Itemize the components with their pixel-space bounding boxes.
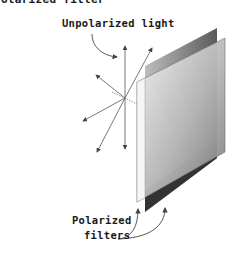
polarized-filters-label-line1: Polarized — [72, 214, 132, 226]
polarized-filters-label-line2: filters — [84, 229, 130, 241]
unpolarized-light-label: Unpolarized light — [62, 17, 175, 29]
figure-title-partial: Polarized filter — [0, 0, 105, 6]
